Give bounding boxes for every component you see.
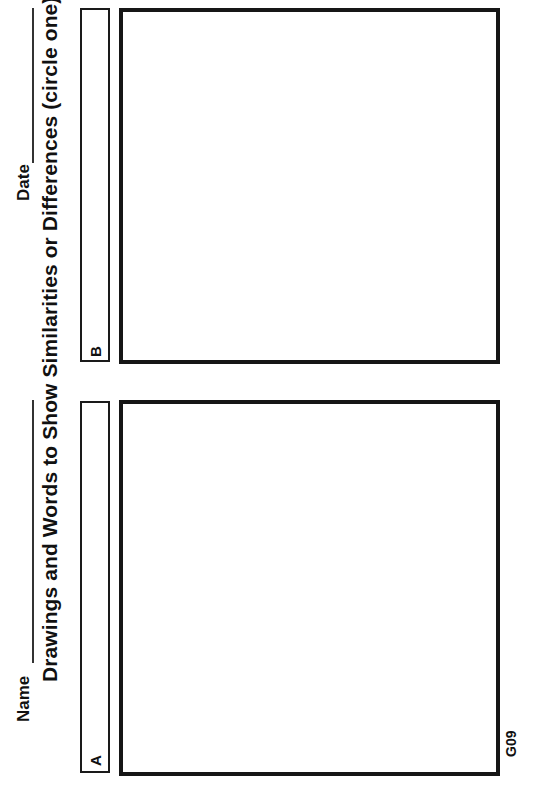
name-field-line[interactable] (32, 400, 34, 663)
name-label: Name (14, 676, 34, 722)
worksheet-title: Drawings and Words to Show Similarities … (38, 0, 62, 682)
page-code: G09 (503, 731, 519, 757)
panel-a-letter: A (87, 755, 104, 766)
panel-b-letter: B (87, 346, 104, 357)
panel-b-label-strip[interactable] (80, 8, 110, 362)
panel-a-drawing-box[interactable] (119, 400, 500, 776)
panel-b-drawing-box[interactable] (119, 8, 500, 364)
panel-a-label-strip[interactable] (80, 401, 110, 773)
date-field-line[interactable] (32, 8, 34, 163)
date-label: Date (14, 164, 34, 201)
